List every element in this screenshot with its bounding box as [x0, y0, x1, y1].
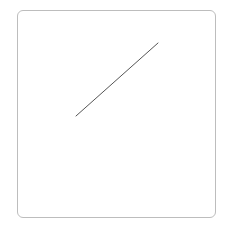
diagonal-line-segment — [76, 43, 158, 116]
drawing-canvas — [0, 0, 229, 229]
